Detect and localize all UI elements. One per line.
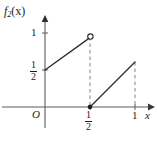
curve-segment-2 (90, 62, 135, 107)
y-axis-function-label: f2(x) (4, 5, 25, 19)
y-axis-function-argument: (x) (11, 4, 25, 18)
figure-container: f2(x) x O 1 1 2 1 2 1 (0, 0, 157, 143)
open-circle-endpoint-icon (88, 34, 93, 39)
y-tick-label-one-half: 1 2 (30, 60, 37, 82)
y-tick-half-denominator: 2 (30, 72, 37, 82)
curve-segment-1 (45, 39, 89, 70)
x-axis-label: x (145, 110, 150, 121)
x-tick-half-denominator: 2 (85, 122, 92, 132)
x-tick-label-one-half: 1 2 (85, 110, 92, 132)
y-tick-label-1: 1 (31, 27, 37, 38)
x-tick-half-numerator: 1 (85, 110, 92, 120)
x-tick-label-1: 1 (132, 110, 138, 121)
plot-area (0, 0, 157, 143)
y-tick-half-numerator: 1 (30, 60, 37, 70)
origin-label: O (32, 109, 40, 120)
y-axis (42, 15, 49, 128)
